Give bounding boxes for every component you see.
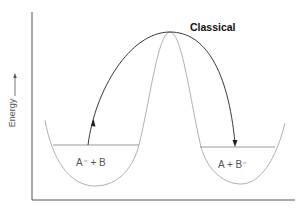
trajectory-arrow-down-icon <box>233 140 238 147</box>
diagram-title: Classical <box>190 21 236 33</box>
classical-trajectory <box>88 32 235 145</box>
energy-diagram: Classical Energy A⁻ + B A + B⁻ <box>0 0 300 212</box>
y-axis-label: Energy <box>7 99 17 128</box>
diagram-canvas <box>0 0 300 212</box>
left-well-label: A⁻ + B <box>76 157 106 168</box>
right-well-label: A + B⁻ <box>218 159 247 170</box>
trajectory-arrow-up-icon <box>91 119 96 127</box>
arrowhead-icon <box>13 73 17 78</box>
